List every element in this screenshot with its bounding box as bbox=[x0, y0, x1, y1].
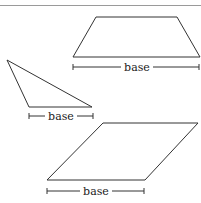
trapezoid-base-label: base bbox=[124, 61, 150, 74]
parallelogram-base-label: base bbox=[83, 185, 109, 198]
triangle-base-label: base bbox=[48, 110, 74, 123]
shapes-diagram: base base base bbox=[0, 0, 201, 203]
trapezoid-figure: base bbox=[73, 17, 200, 74]
parallelogram-shape bbox=[47, 123, 198, 180]
parallelogram-figure: base bbox=[47, 123, 198, 198]
trapezoid-shape bbox=[73, 17, 200, 57]
triangle-figure: base bbox=[7, 60, 93, 123]
